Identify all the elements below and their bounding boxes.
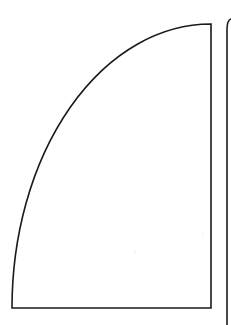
canvas-background bbox=[0, 0, 231, 325]
drawing-canvas bbox=[0, 0, 231, 325]
line-drawing-figure bbox=[0, 0, 231, 325]
